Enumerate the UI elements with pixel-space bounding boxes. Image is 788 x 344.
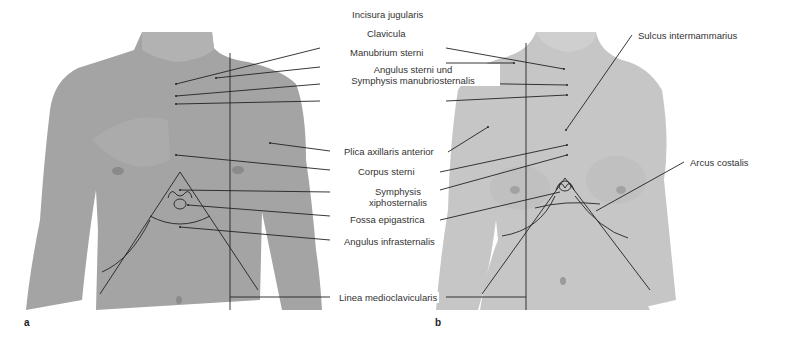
label-corpus-sterni: Corpus sterni: [356, 166, 417, 177]
label-clavicula: Clavicula: [365, 28, 408, 39]
panel-letter-a: a: [24, 317, 30, 328]
label-incisura-jugularis: Incisura jugularis: [350, 9, 425, 20]
label-symphysis-xiphosternalis: Symphysis xiphosternalis: [356, 186, 440, 208]
label-angulus-infrasternalis: Angulus infrasternalis: [342, 236, 437, 247]
panel-letter-b: b: [435, 317, 441, 328]
label-linea-medioclavicularis: Linea medioclavicularis: [337, 292, 439, 303]
male-torso-silhouette: [26, 32, 322, 310]
label-angulus-sterni-line1: Angulus sterni und: [328, 64, 498, 75]
label-angulus-sterni: Angulus sterni und Symphysis manubrioste…: [326, 64, 500, 86]
label-arcus-costalis: Arcus costalis: [688, 157, 751, 168]
label-sulcus-intermammarius: Sulcus intermammarius: [636, 30, 739, 41]
label-symphysis-line2: xiphosternalis: [358, 197, 438, 208]
label-plica-axillaris-anterior: Plica axillaris anterior: [342, 146, 436, 157]
label-symphysis-line1: Symphysis: [358, 186, 438, 197]
label-manubrium-sterni: Manubrium sterni: [348, 47, 425, 58]
label-angulus-sterni-line2: Symphysis manubriosternalis: [328, 75, 498, 86]
label-fossa-epigastrica: Fossa epigastrica: [348, 214, 426, 225]
